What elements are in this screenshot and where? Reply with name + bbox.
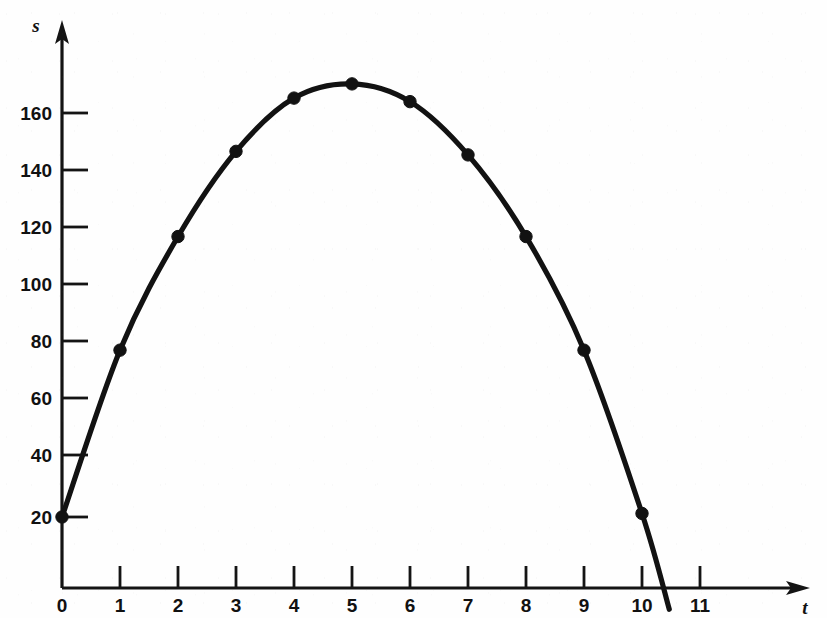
- x-tick-label-0: 0: [57, 595, 68, 616]
- data-point: [404, 95, 416, 107]
- data-point: [172, 230, 184, 242]
- data-point: [114, 344, 126, 356]
- data-point: [230, 145, 242, 157]
- y-tick-label-20: 20: [31, 507, 52, 528]
- x-tick-labels: 0 1 2 3 4 5 6 7 8 9 10 11: [57, 595, 711, 616]
- x-tick-label-1: 1: [115, 595, 126, 616]
- y-tick-label-60: 60: [31, 388, 52, 409]
- y-tick-label-100: 100: [20, 274, 52, 295]
- data-point: [520, 230, 532, 242]
- x-tick-label-2: 2: [173, 595, 184, 616]
- y-tick-labels: 160 140 120 100 80 60 40 20: [20, 103, 52, 528]
- x-tick-label-6: 6: [405, 595, 416, 616]
- x-tick-label-4: 4: [289, 595, 300, 616]
- x-tick-marks: [120, 566, 700, 588]
- x-tick-label-11: 11: [690, 595, 711, 616]
- data-point: [578, 344, 590, 356]
- y-axis-label: s: [31, 15, 39, 36]
- x-tick-label-9: 9: [579, 595, 590, 616]
- x-tick-label-7: 7: [463, 595, 474, 616]
- y-tick-label-80: 80: [31, 331, 52, 352]
- y-tick-label-140: 140: [20, 160, 52, 181]
- x-tick-label-3: 3: [231, 595, 242, 616]
- y-tick-label-120: 120: [20, 217, 52, 238]
- data-point: [462, 149, 474, 161]
- x-tick-label-8: 8: [521, 595, 532, 616]
- y-tick-label-40: 40: [31, 445, 52, 466]
- y-tick-label-160: 160: [20, 103, 52, 124]
- data-curve: [62, 84, 669, 609]
- x-axis-label: t: [802, 597, 808, 618]
- data-point: [288, 92, 300, 104]
- data-point: [346, 78, 358, 90]
- x-tick-label-5: 5: [347, 595, 358, 616]
- data-point: [636, 507, 648, 519]
- axis-group: [55, 20, 810, 595]
- data-point: [56, 511, 68, 523]
- x-tick-label-10: 10: [631, 595, 652, 616]
- line-chart: 160 140 120 100 80 60 40 20 0 1: [0, 0, 827, 618]
- chart-figure: 160 140 120 100 80 60 40 20 0 1: [0, 0, 827, 618]
